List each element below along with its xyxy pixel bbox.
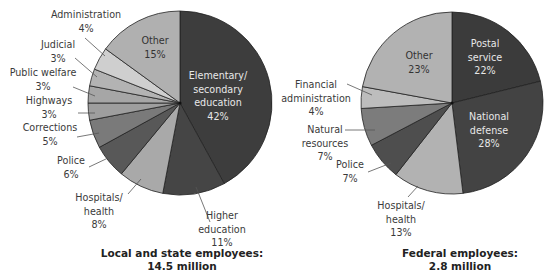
caption-federal-line2: 2.8 million	[429, 260, 491, 272]
slice-label-hospitals-health: Hospitals/health8%	[75, 192, 123, 230]
slice-label-highways: Highways3%	[26, 95, 72, 120]
chart-canvas: Elementary/secondaryeducation42%Highered…	[0, 0, 549, 276]
caption-local-state-line1: Local and state employees:	[101, 247, 263, 259]
leader-line-hospitals-health	[408, 186, 418, 197]
pie-chart-federal: Postalservice22%Nationaldefense28%Hospit…	[281, 12, 543, 238]
slice-label-hospitals-health: Hospitals/health13%	[377, 200, 425, 238]
slice-label-police: Police7%	[336, 159, 364, 184]
leader-line-police	[89, 158, 108, 167]
slice-label-natural-resources: Naturalresources7%	[302, 124, 349, 162]
slice-label-administration: Administration4%	[51, 9, 121, 34]
caption-federal-line1: Federal employees:	[402, 247, 518, 259]
slice-label-police: Police6%	[57, 155, 85, 180]
caption-local-state-line2: 14.5 million	[147, 260, 217, 272]
pie-center-dot	[450, 101, 453, 104]
slice-label-financial-administration: Financialadministration4%	[281, 79, 351, 117]
leader-line-administration	[85, 38, 105, 56]
slice-label-corrections: Corrections5%	[23, 122, 78, 147]
slice-label-public-welfare: Public welfare3%	[10, 67, 77, 92]
slice-label-higher-education: Highereducation11%	[198, 210, 246, 248]
pie-chart-local-state: Elementary/secondaryeducation42%Highered…	[10, 9, 272, 248]
pie-center-dot	[178, 101, 181, 104]
leader-line-judicial	[75, 58, 97, 77]
slice-label-judicial: Judicial3%	[40, 39, 75, 64]
